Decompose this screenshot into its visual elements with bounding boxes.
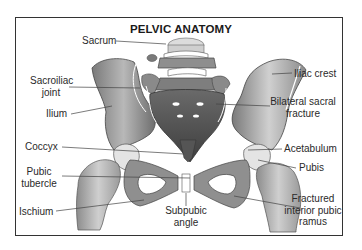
label-sacroiliac-line1: Sacroiliac — [30, 75, 72, 87]
left-ilium — [92, 59, 155, 150]
label-ischium: Ischium — [19, 206, 53, 218]
label-subpubic-line2: angle — [162, 217, 210, 229]
label-pubic-tubercle-line2: tubercle — [18, 178, 60, 190]
sacrum — [146, 86, 226, 162]
label-bsf-line2: fracture — [268, 108, 338, 120]
label-acetabulum: Acetabulum — [284, 143, 337, 155]
label-bilateral-sacral-fracture: Bilateral sacral fracture — [268, 96, 338, 119]
label-pubis: Pubis — [299, 162, 324, 174]
label-bsf-line1: Bilateral sacral — [268, 96, 338, 108]
label-sacroiliac-line2: joint — [30, 87, 72, 99]
label-ilium: Ilium — [46, 108, 67, 120]
label-coccyx: Coccyx — [25, 141, 58, 153]
label-subpubic-angle: Subpubic angle — [162, 205, 210, 228]
label-subpubic-line1: Subpubic — [162, 205, 210, 217]
label-pubic-tubercle-line1: Pubic — [18, 166, 60, 178]
label-fractured-pubic-ramus: Fractured interior pubic ramus — [283, 193, 343, 228]
label-fpr-line1: Fractured — [283, 193, 343, 205]
label-sacroiliac-joint: Sacroiliac joint — [30, 75, 72, 98]
vertebrae — [142, 38, 230, 96]
label-iliac-crest: Iliac crest — [294, 68, 336, 80]
label-fpr-line3: ramus — [283, 216, 343, 228]
label-fpr-line2: interior pubic — [283, 205, 343, 217]
label-pubic-tubercle: Pubic tubercle — [18, 166, 60, 189]
pubic-arch — [124, 160, 250, 208]
label-sacrum: Sacrum — [82, 35, 116, 47]
